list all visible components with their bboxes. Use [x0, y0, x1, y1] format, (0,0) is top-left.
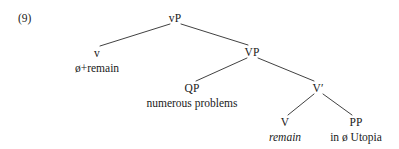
tree-node-QP: QP — [185, 82, 200, 94]
tree-edge-vP-to-VP — [181, 24, 248, 45]
tree-node-v: v — [94, 47, 100, 59]
tree-node-Vbar: V′ — [312, 82, 323, 94]
example-number: (9) — [18, 12, 31, 24]
tree-terminal-QP: numerous problems — [146, 97, 237, 109]
tree-terminal-PP: in ø Utopia — [330, 131, 382, 143]
tree-edge-Vbar-to-V — [288, 94, 314, 115]
tree-edge-VP-to-QP — [196, 58, 247, 81]
tree-node-VP: VP — [245, 46, 260, 58]
tree-node-PP: PP — [350, 116, 363, 128]
tree-terminal-v: ø+remain — [75, 62, 119, 74]
syntax-tree-figure: (9) vPvø+remainVPQPnumerous problemsV′Vr… — [0, 0, 399, 149]
tree-terminal-V: remain — [269, 131, 301, 143]
tree-edge-Vbar-to-PP — [323, 94, 352, 115]
tree-node-V: V — [281, 116, 289, 128]
tree-edges — [0, 0, 399, 149]
tree-edge-vP-to-v — [100, 24, 170, 46]
tree-node-vP: vP — [169, 12, 181, 24]
tree-edge-VP-to-Vbar — [258, 58, 314, 81]
